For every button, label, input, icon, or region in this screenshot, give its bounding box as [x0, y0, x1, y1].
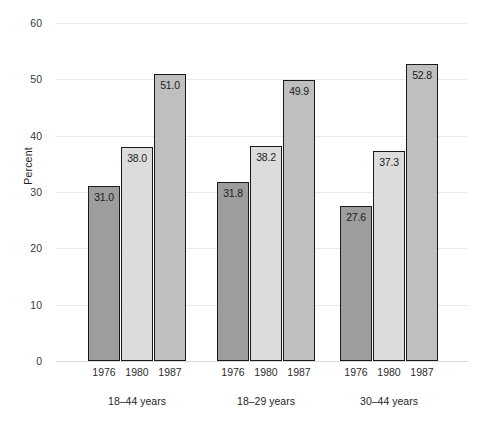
- y-axis-tick-label: 0: [0, 355, 42, 367]
- group-label: 18–44 years: [108, 395, 166, 407]
- group-label: 18–29 years: [237, 395, 295, 407]
- bar-18-44-years-1980: 38.0: [121, 147, 153, 361]
- bar-value-label: 31.0: [89, 191, 119, 203]
- bar-value-label: 37.3: [374, 156, 404, 168]
- bar-30-44-years-1980: 37.3: [373, 151, 405, 361]
- bar-value-label: 31.8: [218, 187, 248, 199]
- bar-30-44-years-1987: 52.8: [406, 64, 438, 361]
- bar-18-44-years-1987: 51.0: [154, 74, 186, 361]
- x-axis-tick-label: 1987: [158, 366, 181, 378]
- bar-18-44-years-1976: 31.0: [88, 186, 120, 361]
- bar-chart: Percent 0102030405060 31.038.051.031.838…: [0, 0, 487, 433]
- x-axis-tick-label: 1987: [287, 366, 310, 378]
- group-label: 30–44 years: [360, 395, 418, 407]
- x-axis-tick-label: 1976: [92, 366, 115, 378]
- y-axis-tick-label: 50: [0, 73, 42, 85]
- bar-18-29-years-1980: 38.2: [250, 146, 282, 361]
- bar-30-44-years-1976: 27.6: [340, 206, 372, 361]
- gridline: [56, 361, 468, 362]
- plot-area: 31.038.051.031.838.249.927.637.352.8: [56, 23, 468, 361]
- y-axis-tick-labels: 0102030405060: [0, 0, 50, 433]
- gridline: [56, 23, 468, 24]
- x-axis-tick-label: 1980: [254, 366, 277, 378]
- x-axis-tick-label: 1980: [125, 366, 148, 378]
- bar-value-label: 38.0: [122, 152, 152, 164]
- x-axis-tick-label: 1980: [377, 366, 400, 378]
- bar-value-label: 38.2: [251, 151, 281, 163]
- x-axis-tick-label: 1976: [221, 366, 244, 378]
- bar-18-29-years-1976: 31.8: [217, 182, 249, 361]
- x-axis-tick-label: 1976: [344, 366, 367, 378]
- bar-18-29-years-1987: 49.9: [283, 80, 315, 361]
- y-axis-tick-label: 10: [0, 299, 42, 311]
- bar-value-label: 51.0: [155, 79, 185, 91]
- bar-value-label: 49.9: [284, 85, 314, 97]
- bar-value-label: 27.6: [341, 211, 371, 223]
- y-axis-tick-label: 20: [0, 242, 42, 254]
- y-axis-tick-label: 30: [0, 186, 42, 198]
- y-axis-tick-label: 60: [0, 17, 42, 29]
- bar-value-label: 52.8: [407, 69, 437, 81]
- x-axis-tick-label: 1987: [410, 366, 433, 378]
- y-axis-tick-label: 40: [0, 130, 42, 142]
